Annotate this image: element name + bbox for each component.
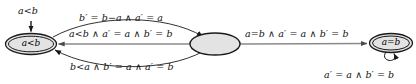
- edge-top-label: b′ = b−a ∧ a′ = a: [79, 13, 163, 23]
- initial-arrow-label: a<b: [18, 6, 38, 16]
- edge-middle-label: a<b ∧ a′ = a ∧ b′ = b: [69, 29, 173, 39]
- edge-self-loop-label: a′ = a ∧ b′ = b: [324, 70, 394, 80]
- automaton-diagram: a<b b′ = b−a ∧ a′ = a a<b ∧ a′ = a ∧ b′ …: [0, 0, 416, 84]
- state-middle[interactable]: [190, 33, 240, 55]
- edge-bottom-label: b<a ∧ b′ = a ∧ a′ = b: [70, 62, 174, 72]
- state-a-eq-b-label: a=b: [370, 38, 412, 47]
- edge-right: [240, 44, 367, 45]
- edge-self-loop: [384, 52, 394, 60]
- edge-right-label: a=b ∧ a′ = a ∧ b′ = b: [245, 29, 349, 39]
- state-a-lt-b-label: a<b: [6, 39, 56, 48]
